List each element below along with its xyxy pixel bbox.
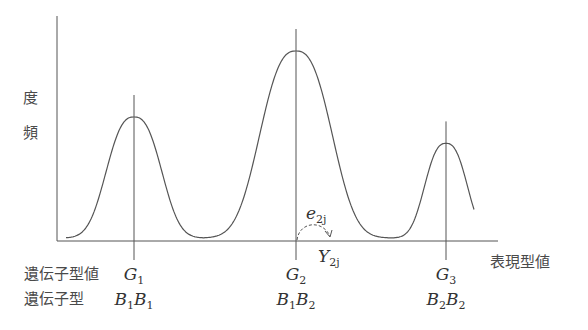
genotype-g2: B1B2 (276, 289, 316, 312)
diagram-canvas: 度 頻 e2j Y2j 遺伝子型値 遺伝子型 表現型値 G1B1B1G2B1B2… (0, 0, 588, 330)
frequency-distribution-curve (66, 51, 474, 238)
genotype-g1: B1B1 (114, 289, 154, 312)
y-axis-label-char-2: 度 (23, 89, 38, 107)
y-axis-label-char-1: 頻 (23, 124, 38, 142)
deviation-label: e2j (306, 203, 326, 226)
genotype-row-label: 遺伝子型 (24, 290, 84, 308)
genotypic-value-g2: G2 (286, 264, 307, 287)
x-axis-label: 表現型値 (490, 253, 550, 271)
genotypic-value-g1: G1 (124, 264, 145, 287)
phenotype-value-label: Y2j (318, 246, 340, 269)
genotypic-value-g3: G3 (436, 264, 457, 287)
deviation-arrow (297, 225, 330, 240)
genotype-g3: B2B2 (426, 289, 466, 312)
genotypic-value-row-label: 遺伝子型値 (24, 265, 99, 283)
